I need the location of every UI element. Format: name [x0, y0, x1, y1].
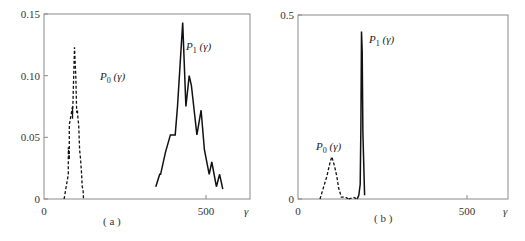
x-tick-label: 0 [295, 205, 301, 217]
series-line-p0 [64, 47, 83, 199]
panel-caption-a: ( a ) [103, 215, 121, 228]
series-line-p1 [357, 32, 365, 199]
y-tick-label: 0.15 [21, 8, 41, 20]
x-tick-label: 0 [41, 205, 47, 217]
panel-caption-b: ( b ) [374, 212, 393, 225]
series-label-p1: P1 (γ) [185, 40, 211, 55]
x-tick-label: 500 [459, 205, 476, 217]
plot-frame-a [44, 14, 250, 199]
y-tick-label: 0.05 [21, 131, 41, 143]
x-axis-variable-a: γ [244, 205, 249, 217]
series-label-p0: P0 (γ) [99, 70, 125, 85]
series-group-a: P0 (γ)P1 (γ) [64, 23, 223, 199]
series-label-p0: P0 (γ) [315, 140, 341, 155]
chart-panel-a: 00.050.100.15 0500 P0 (γ)P1 (γ) γ ( a ) [21, 8, 250, 228]
x-tick-label: 500 [198, 205, 215, 217]
x-axis-variable-b: γ [503, 205, 508, 217]
series-group-b: P0 (γ)P1 (γ) [315, 32, 394, 199]
y-tick-label: 0 [289, 193, 295, 205]
series-line-p0 [320, 157, 349, 199]
y-axis-b: 00.5 [280, 9, 302, 205]
y-tick-label: 0.5 [280, 9, 294, 21]
y-tick-label: 0.10 [21, 70, 41, 82]
y-tick-label: 0 [35, 193, 41, 205]
series-label-p1: P1 (γ) [368, 33, 394, 48]
figure: 00.050.100.15 0500 P0 (γ)P1 (γ) γ ( a ) … [0, 0, 525, 241]
x-axis-a: 0500 [41, 195, 215, 217]
plot-frame-b [298, 15, 508, 199]
chart-panel-b: 00.5 0500 P0 (γ)P1 (γ) γ ( b ) [280, 9, 508, 225]
